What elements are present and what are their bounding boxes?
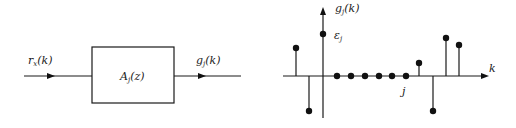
input-arrow-icon [47, 73, 55, 79]
stem-point-zero [403, 73, 409, 79]
stem-point [456, 42, 462, 48]
peak-label: εj [334, 29, 343, 43]
input-signal-label: rx(k) [28, 54, 52, 68]
filter-block-label: Aj(z) [119, 70, 145, 84]
y-axis-label: gj(k) [335, 2, 359, 16]
stem-point-zero [334, 73, 340, 79]
x-axis-label: k [489, 62, 496, 75]
output-arrow-icon [198, 73, 206, 79]
stem-point [430, 108, 436, 114]
stem-plot: k gj(k) εj j [283, 2, 496, 118]
y-axis-arrow-icon [320, 7, 326, 15]
stem-point-zero [389, 73, 395, 79]
stem-point-peak [320, 31, 326, 37]
stem-point [416, 60, 422, 66]
stem-point [293, 45, 299, 51]
x-axis-arrow-icon [481, 73, 489, 79]
index-j-label: j [399, 85, 406, 98]
stem-point-zero [362, 73, 368, 79]
output-signal-label: gj(k) [196, 54, 220, 68]
diagram-canvas: rx(k) Aj(z) gj(k) k gj(k) εj j [0, 0, 516, 128]
stem-point [306, 108, 312, 114]
block-diagram: rx(k) Aj(z) gj(k) [24, 47, 241, 103]
stem-point [443, 35, 449, 41]
stem-point-zero [348, 73, 354, 79]
stem-point-zero [376, 73, 382, 79]
